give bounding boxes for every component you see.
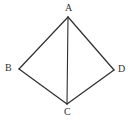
edge-AD [68,17,114,70]
edge-CD [67,70,114,104]
edge-BC [19,69,67,104]
edge-AB [19,17,68,69]
vertex-label-d: D [118,64,125,74]
vertex-label-c: C [64,107,71,117]
diagonal-AC [67,17,68,104]
vertex-label-a: A [65,3,72,13]
vertex-label-b: B [5,63,12,73]
geometry-figure: A B C D [0,0,132,124]
